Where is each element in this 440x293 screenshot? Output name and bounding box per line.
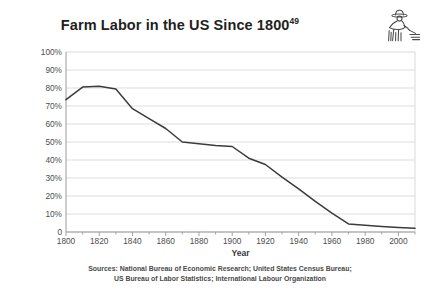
y-tick-label-20pct: 20% <box>45 191 62 201</box>
x-tick-label-1880: 1880 <box>190 236 208 246</box>
x-tick-label-1920: 1920 <box>256 236 274 246</box>
x-tick-label-1820: 1820 <box>90 236 108 246</box>
farm-labor-chart-figure: Farm Labor in the US Since 180049 <box>0 0 440 293</box>
x-tick-label-1840: 1840 <box>123 236 141 246</box>
farmer-icon <box>374 6 426 52</box>
y-tick-label-100pct: 100% <box>41 47 62 57</box>
x-tick-label-1960: 1960 <box>323 236 341 246</box>
gridlines <box>66 52 415 232</box>
y-tick-label-10pct: 10% <box>45 209 62 219</box>
y-tick-label-40pct: 40% <box>45 155 62 165</box>
x-tick-label-1940: 1940 <box>289 236 307 246</box>
plot-area: 010%20%30%40%50%60%70%80%90%100% 1800182… <box>66 52 415 232</box>
y-tick-label-30pct: 30% <box>45 173 62 183</box>
y-tick-label-50pct: 50% <box>45 137 62 147</box>
chart-title: Farm Labor in the US Since 180049 <box>0 17 360 33</box>
x-tick-label-1980: 1980 <box>356 236 374 246</box>
x-tick-label-1860: 1860 <box>156 236 174 246</box>
chart-plot-svg <box>66 52 415 232</box>
y-tick-label-90pct: 90% <box>45 65 62 75</box>
y-tick-label-80pct: 80% <box>45 83 62 93</box>
sources-line-1: Sources: National Bureau of Economic Res… <box>0 264 440 274</box>
x-tick-label-2000: 2000 <box>389 236 407 246</box>
x-tick-label-1800: 1800 <box>57 236 75 246</box>
y-tick-label-70pct: 70% <box>45 101 62 111</box>
chart-title-text: Farm Labor in the US Since 1800 <box>61 17 290 33</box>
chart-title-footnote-marker: 49 <box>290 16 300 26</box>
x-axis-title: Year <box>66 248 415 258</box>
y-tick-label-60pct: 60% <box>45 119 62 129</box>
data-series-line <box>66 86 415 228</box>
sources-note: Sources: National Bureau of Economic Res… <box>0 264 440 285</box>
x-tick-label-1900: 1900 <box>223 236 241 246</box>
sources-line-2: US Bureau of Labor Statistics; Internati… <box>0 274 440 284</box>
